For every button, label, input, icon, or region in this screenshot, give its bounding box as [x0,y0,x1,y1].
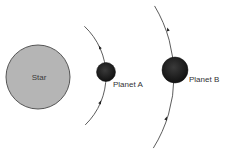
arrow-icon [99,46,102,50]
arrow-icon [167,28,170,32]
planet-b-label: Planet B [189,76,219,84]
arrow-icon [98,101,101,105]
planet-b [162,57,188,83]
star-label: Star [32,74,47,82]
arrow-icon [164,117,167,121]
planet-a-label: Planet A [113,81,143,89]
planet-a [97,63,116,82]
